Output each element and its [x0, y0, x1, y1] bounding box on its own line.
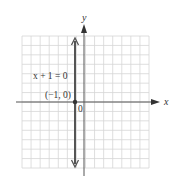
x-axis-label: x	[163, 96, 169, 107]
coordinate-plane: x y x + 1 = 0 (−1, 0) 0	[0, 0, 192, 186]
x-axis-arrow-icon	[151, 99, 160, 105]
point-label: (−1, 0)	[45, 90, 71, 101]
origin-label: 0	[78, 104, 83, 114]
equation-label: x + 1 = 0	[33, 71, 68, 81]
y-axis-arrow-icon	[81, 24, 87, 33]
y-axis-label: y	[81, 12, 87, 23]
point-neg1-0	[73, 100, 77, 104]
